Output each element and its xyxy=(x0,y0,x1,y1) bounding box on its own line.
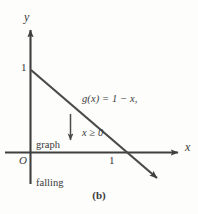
y-axis-label: y xyxy=(24,11,29,24)
x-axis-label: x xyxy=(185,141,190,154)
y-axis-tick-label-1: 1 xyxy=(21,62,27,74)
graph-falling-note-line-2: falling xyxy=(36,177,63,190)
figure-panel: y x 1 1 O g(x) = 1 − x, x ≥ 0 graph fall… xyxy=(0,0,198,214)
function-equation-label: g(x) = 1 − x, x ≥ 0 xyxy=(82,70,137,161)
function-equation-line-1: g(x) = 1 − x, xyxy=(82,93,137,104)
figure-caption: (b) xyxy=(0,190,198,202)
graph-falling-note-line-1: graph xyxy=(36,139,63,152)
origin-label: O xyxy=(19,155,27,167)
function-domain-line-2: x ≥ 0 xyxy=(82,127,137,138)
